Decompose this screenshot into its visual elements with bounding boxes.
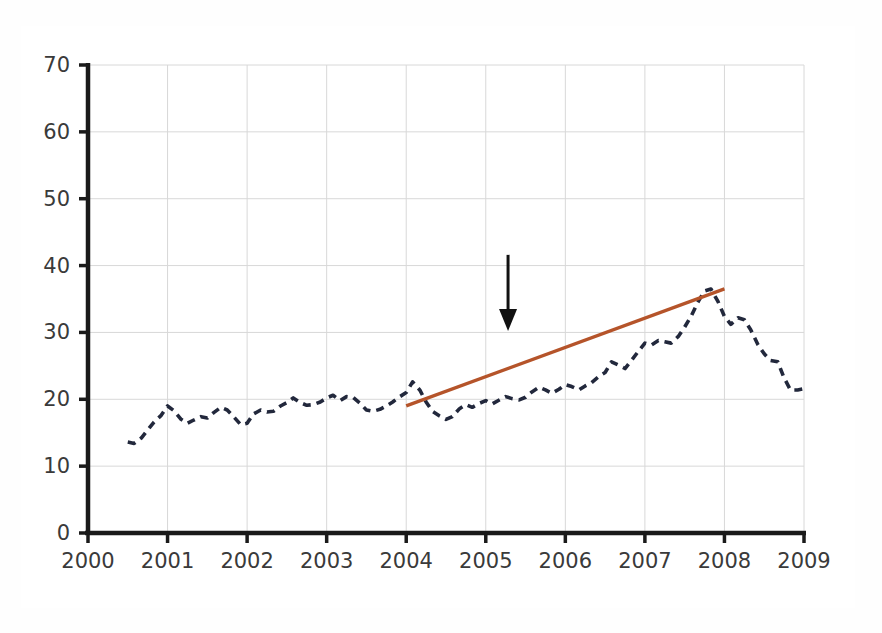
y-axis-tick-label: 0	[57, 521, 70, 545]
y-axis-tick-label: 60	[43, 120, 70, 144]
axes	[79, 63, 806, 543]
y-tick-labels: 010203040506070	[43, 53, 70, 545]
series-observed-series	[128, 289, 804, 443]
x-axis-tick-label: 2002	[220, 549, 273, 573]
x-tick-labels: 2000200120022003200420052006200720082009	[61, 549, 830, 573]
x-axis-tick-label: 2003	[300, 549, 353, 573]
x-axis-tick-label: 2006	[539, 549, 592, 573]
chart-page: 010203040506070 200020012002200320042005…	[0, 0, 882, 633]
y-axis-tick-label: 20	[43, 387, 70, 411]
series-group	[128, 289, 804, 443]
x-axis-tick-label: 2000	[61, 549, 114, 573]
x-axis-tick-label: 2009	[777, 549, 830, 573]
x-axis-tick-label: 2001	[141, 549, 194, 573]
y-axis-tick-label: 70	[43, 53, 70, 77]
annotations-group	[499, 255, 517, 331]
x-axis-tick-label: 2005	[459, 549, 512, 573]
line-chart: 010203040506070 200020012002200320042005…	[0, 0, 882, 633]
x-axis-tick-label: 2008	[698, 549, 751, 573]
x-axis-tick-label: 2004	[379, 549, 432, 573]
y-axis-tick-label: 30	[43, 320, 70, 344]
down-arrow-head	[499, 309, 517, 331]
y-axis-tick-label: 50	[43, 187, 70, 211]
y-axis-tick-label: 40	[43, 254, 70, 278]
y-axis-tick-label: 10	[43, 454, 70, 478]
x-axis-tick-label: 2007	[618, 549, 671, 573]
